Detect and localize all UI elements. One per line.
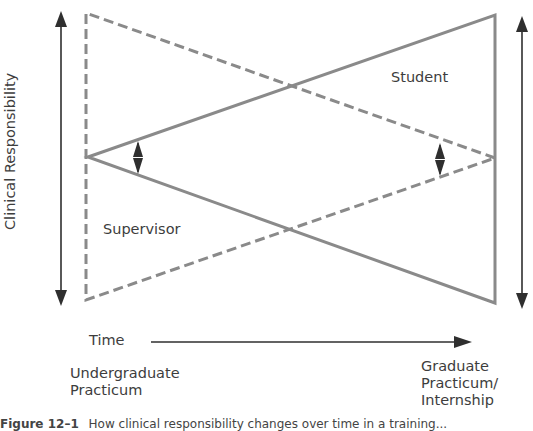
clinical-responsibility-figure: Clinical Responsibility Student Supervis… xyxy=(0,0,533,431)
supervisor-dashed-triangle xyxy=(86,13,495,300)
figure-caption: Figure 12–1 How clinical responsibility … xyxy=(0,417,447,431)
left-gap-double-arrow-icon xyxy=(131,141,145,174)
time-arrow-icon xyxy=(151,336,472,348)
start-stage-label: Undergraduate Practicum xyxy=(70,365,210,399)
y-axis-label: Clinical Responsibility xyxy=(2,73,18,230)
right-gap-double-arrow-icon xyxy=(433,143,447,176)
y-axis-double-arrow-icon xyxy=(55,11,67,306)
student-label: Student xyxy=(391,68,448,86)
caption-text: How clinical responsibility changes over… xyxy=(89,417,448,431)
right-double-arrow-icon xyxy=(516,16,528,309)
figure-number: Figure 12–1 xyxy=(0,417,79,431)
x-axis-label: Time xyxy=(89,331,125,349)
end-stage-label: Graduate Practicum/ Internship xyxy=(421,358,531,409)
supervisor-label: Supervisor xyxy=(103,220,180,238)
